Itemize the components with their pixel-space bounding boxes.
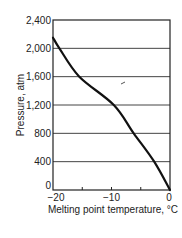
x-tick-label: −10 — [103, 192, 120, 203]
y-tick-label: 2,400 — [26, 15, 51, 26]
y-tick-label: 1,200 — [26, 100, 51, 111]
melting-curve — [53, 38, 170, 190]
y-tick-label: 1,600 — [26, 71, 51, 82]
stray-mark — [121, 82, 125, 84]
x-tick-label: 0 — [166, 192, 172, 203]
y-tick-label: 0 — [45, 180, 51, 191]
x-tick-label: −20 — [48, 192, 65, 203]
y-tick-label: 2,000 — [26, 43, 51, 54]
x-axis-ticks: −20−100 — [48, 187, 173, 203]
y-axis-label: Pressure, atm — [15, 74, 26, 136]
y-tick-label: 400 — [34, 156, 51, 167]
y-tick-label: 800 — [34, 128, 51, 139]
x-axis-label: Melting point temperature, °C — [48, 204, 178, 215]
chart: 04008001,2001,6002,0002,400 −20−100 Pres… — [0, 0, 182, 238]
y-axis-ticks: 04008001,2001,6002,0002,400 — [26, 15, 51, 192]
